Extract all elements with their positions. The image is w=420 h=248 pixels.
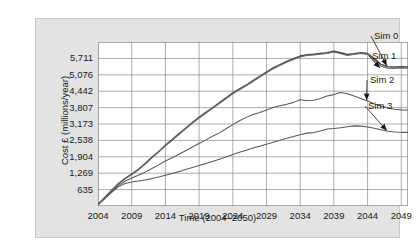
y-tick-label: 635 [41, 184, 93, 195]
y-tick-label: 5,711 [41, 52, 93, 63]
y-tick-label: 3,807 [41, 102, 93, 113]
series-label-sim-3: Sim 3 [368, 100, 392, 111]
series-label-sim-2: Sim 2 [370, 74, 394, 85]
y-tick-label: 4,442 [41, 85, 93, 96]
y-tick-label: 1,269 [41, 167, 93, 178]
series-line-sim-0 [98, 51, 408, 204]
series-label-sim-1: Sim 1 [372, 50, 396, 61]
chart-panel: Cost £ (millions/year) 6351,2691,9042,53… [35, 18, 400, 238]
y-tick-label: 3,173 [41, 118, 93, 129]
y-tick-label: 1,904 [41, 151, 93, 162]
y-tick-label: 5,076 [41, 69, 93, 80]
plot-area [98, 42, 408, 206]
series-label-sim-0: Sim 0 [374, 30, 398, 41]
y-tick-label: 2,538 [41, 134, 93, 145]
chart-figure: Cost £ (millions/year) 6351,2691,9042,53… [0, 0, 420, 248]
plot-svg [98, 42, 408, 206]
x-axis-title: Time (2004–2050) [35, 212, 400, 223]
